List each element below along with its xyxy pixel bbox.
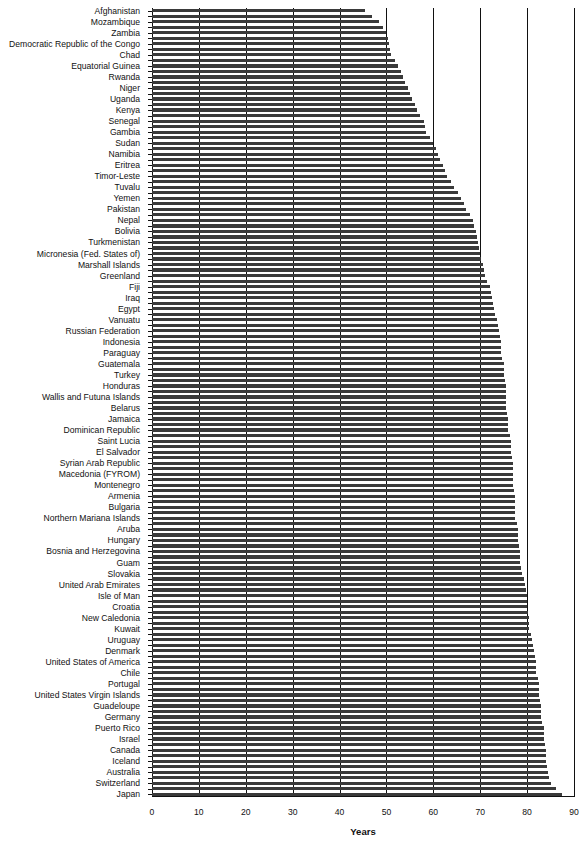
bar-unlabeled	[152, 588, 526, 591]
category-label: Switzerland	[96, 778, 140, 788]
bar-unlabeled	[152, 92, 410, 95]
bar-bosnia-and-herzegovina	[152, 550, 520, 553]
y-tick	[148, 11, 152, 12]
bar-denmark	[152, 649, 534, 652]
y-tick	[148, 336, 152, 337]
y-tick	[148, 182, 152, 183]
bar-unlabeled	[152, 522, 517, 525]
y-tick	[148, 574, 152, 575]
category-label: Uganda	[110, 94, 140, 104]
bar-unlabeled	[152, 710, 541, 713]
y-tick	[148, 739, 152, 740]
plot-area	[152, 8, 574, 797]
y-tick	[148, 220, 152, 221]
bar-unlabeled	[152, 644, 533, 647]
y-tick	[148, 44, 152, 45]
category-label: Nepal	[118, 215, 140, 225]
bar-paraguay	[152, 351, 501, 354]
bar-macedonia-fyrom-	[152, 473, 513, 476]
y-tick	[148, 700, 152, 701]
bar-unlabeled	[152, 26, 383, 29]
category-label: Bolivia	[115, 226, 140, 236]
category-label: Fiji	[129, 282, 140, 292]
y-tick	[148, 728, 152, 729]
bar-uganda	[152, 97, 412, 100]
y-tick	[148, 540, 152, 541]
bar-japan	[152, 793, 562, 796]
bar-equatorial-guinea	[152, 64, 398, 67]
y-tick	[148, 772, 152, 773]
bar-new-caledonia	[152, 616, 529, 619]
y-tick	[148, 436, 152, 437]
category-label: Bulgaria	[108, 502, 140, 512]
y-tick	[148, 342, 152, 343]
bar-unlabeled	[152, 489, 514, 492]
y-tick	[148, 77, 152, 78]
category-label: Paraguay	[103, 348, 140, 358]
category-label: Aruba	[117, 524, 140, 534]
category-label: Indonesia	[103, 337, 140, 347]
category-label: Denmark	[105, 646, 140, 656]
category-label: Saint Lucia	[97, 436, 140, 446]
x-tick-label-50: 50	[382, 807, 392, 817]
y-tick	[148, 783, 152, 784]
y-tick	[148, 204, 152, 205]
category-label: Jamaica	[108, 414, 140, 424]
y-tick	[148, 121, 152, 122]
y-tick	[148, 154, 152, 155]
bar-unlabeled	[152, 577, 524, 580]
bar-aruba	[152, 528, 518, 531]
category-label: Wallis and Futuna Islands	[42, 392, 140, 402]
bar-egypt	[152, 307, 494, 310]
y-tick	[148, 408, 152, 409]
y-tick	[148, 551, 152, 552]
y-tick	[148, 94, 152, 95]
bar-chile	[152, 671, 536, 674]
bar-unlabeled	[152, 213, 470, 216]
bar-indonesia	[152, 340, 501, 343]
category-label: Democratic Republic of the Congo	[9, 39, 140, 49]
bar-portugal	[152, 682, 539, 685]
bar-niger	[152, 86, 408, 89]
bar-bulgaria	[152, 506, 515, 509]
x-axis-line	[152, 796, 574, 797]
category-label: Senegal	[108, 116, 140, 126]
y-tick	[148, 524, 152, 525]
category-label: Hungary	[108, 535, 140, 545]
y-tick	[148, 16, 152, 17]
category-label: Micronesia (Fed. States of)	[37, 249, 140, 259]
category-label: Gambia	[110, 127, 140, 137]
y-tick	[148, 507, 152, 508]
category-label: Puerto Rico	[95, 723, 140, 733]
y-tick	[148, 176, 152, 177]
category-label: El Salvador	[96, 447, 140, 457]
y-tick	[148, 623, 152, 624]
bar-unlabeled	[152, 48, 390, 51]
bar-unlabeled	[152, 202, 464, 205]
y-tick	[148, 259, 152, 260]
bar-unlabeled	[152, 180, 451, 183]
y-tick	[148, 132, 152, 133]
x-tick-label-60: 60	[429, 807, 439, 817]
y-tick	[148, 778, 152, 779]
bar-unlabeled	[152, 611, 528, 614]
y-tick	[148, 761, 152, 762]
y-tick	[148, 414, 152, 415]
bar-unlabeled	[152, 754, 546, 757]
y-tick	[148, 474, 152, 475]
y-tick	[148, 745, 152, 746]
category-label: Isle of Man	[98, 591, 140, 601]
y-tick	[148, 364, 152, 365]
bar-australia	[152, 771, 548, 774]
category-label: United States of America	[45, 657, 140, 667]
y-tick	[148, 66, 152, 67]
bar-unlabeled	[152, 268, 484, 271]
bar-canada	[152, 749, 546, 752]
bar-israel	[152, 737, 544, 740]
y-tick	[148, 292, 152, 293]
y-tick	[148, 369, 152, 370]
bar-unlabeled	[152, 291, 491, 294]
category-label: Armenia	[108, 491, 140, 501]
y-tick	[148, 767, 152, 768]
y-tick	[148, 607, 152, 608]
